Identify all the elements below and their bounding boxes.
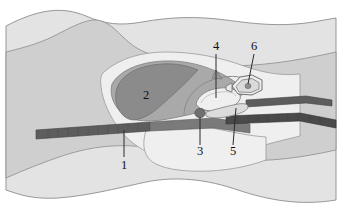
figure-root: 1 2 3 4 5 6 xyxy=(0,0,338,224)
polygonal-structure-core xyxy=(245,83,251,88)
tissue-layers xyxy=(6,10,336,202)
anatomy-illustration: 1 2 3 4 5 6 xyxy=(0,0,338,224)
label-4: 4 xyxy=(213,39,220,53)
label-5: 5 xyxy=(230,144,236,158)
label-3: 3 xyxy=(197,144,203,158)
label-2: 2 xyxy=(143,88,149,102)
label-6: 6 xyxy=(251,39,257,53)
label-1: 1 xyxy=(121,158,127,172)
small-dark-dot xyxy=(195,108,205,117)
